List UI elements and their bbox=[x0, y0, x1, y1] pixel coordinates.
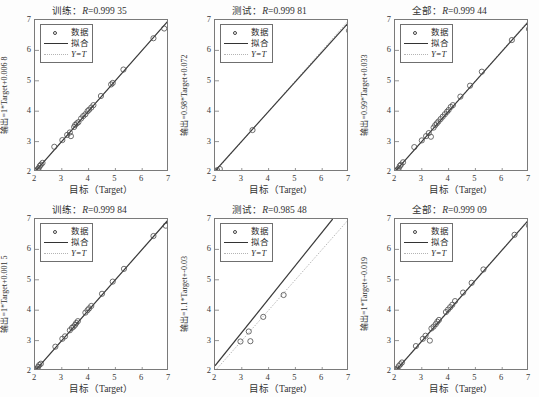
x-tick-label: 3 bbox=[234, 173, 248, 183]
x-axis-label: 目标（Target） bbox=[34, 182, 168, 196]
x-axis-label: 目标（Target） bbox=[214, 381, 348, 395]
legend-label: Y=T bbox=[249, 248, 266, 259]
x-tick-label: 6 bbox=[494, 372, 508, 382]
circle-marker-icon bbox=[43, 27, 69, 38]
y-tick-label: 6 bbox=[197, 243, 211, 253]
plot-area: 数据拟合Y=T bbox=[394, 19, 528, 171]
correlation-value: =0.999 44 bbox=[448, 6, 487, 16]
legend-item-fit[interactable]: 拟合 bbox=[403, 38, 449, 49]
x-tick-label: 7 bbox=[521, 173, 535, 183]
data-point bbox=[427, 338, 432, 343]
legend-item-identity[interactable]: Y=T bbox=[403, 248, 449, 259]
legend-item-identity[interactable]: Y=T bbox=[43, 248, 89, 259]
x-tick-label: 2 bbox=[27, 173, 41, 183]
legend-item-fit[interactable]: 拟合 bbox=[43, 38, 89, 49]
x-tick-label: 4 bbox=[261, 173, 275, 183]
data-point bbox=[163, 223, 168, 228]
legend-item-fit[interactable]: 拟合 bbox=[223, 38, 269, 49]
legend-label: Y=T bbox=[249, 49, 266, 60]
legend-item-data[interactable]: 数据 bbox=[403, 226, 449, 237]
solid-line-icon bbox=[43, 38, 69, 49]
y-tick-label: 6 bbox=[377, 243, 391, 253]
panel-title-prefix: 训练： bbox=[52, 205, 82, 215]
y-tick-label: 6 bbox=[17, 44, 31, 54]
x-tick-label: 4 bbox=[441, 173, 455, 183]
y-tick-label: 5 bbox=[17, 274, 31, 284]
correlation-value: =0.985 48 bbox=[268, 205, 307, 215]
legend-item-fit[interactable]: 拟合 bbox=[43, 237, 89, 248]
correlation-value: =0.999 81 bbox=[268, 6, 307, 16]
legend-item-identity[interactable]: Y=T bbox=[223, 49, 269, 60]
legend-label: 数据 bbox=[429, 27, 449, 38]
legend-item-data[interactable]: 数据 bbox=[403, 27, 449, 38]
regression-panel-6: 全部：R=0.999 09输出=1*Target+-0.019目标（Target… bbox=[360, 199, 539, 397]
legend-item-identity[interactable]: Y=T bbox=[403, 49, 449, 60]
panel-title-prefix: 训练： bbox=[52, 6, 82, 16]
y-tick-label: 4 bbox=[377, 304, 391, 314]
y-tick-label: 7 bbox=[17, 14, 31, 24]
legend-label: 数据 bbox=[69, 226, 89, 237]
x-tick-label: 6 bbox=[134, 173, 148, 183]
solid-line-glyph bbox=[224, 242, 248, 243]
plot-area: 数据拟合Y=T bbox=[34, 19, 168, 171]
circle-marker-glyph bbox=[53, 230, 57, 234]
y-tick-label: 3 bbox=[17, 136, 31, 146]
panel-title-prefix: 测试： bbox=[232, 205, 262, 215]
x-axis-label: 目标（Target） bbox=[34, 381, 168, 395]
dotted-line-glyph bbox=[44, 54, 68, 55]
y-tick-label: 4 bbox=[17, 304, 31, 314]
y-tick-label: 3 bbox=[197, 335, 211, 345]
dotted-line-icon bbox=[403, 49, 429, 60]
y-tick-label: 5 bbox=[377, 75, 391, 85]
legend-label: 拟合 bbox=[249, 38, 269, 49]
y-tick-label: 5 bbox=[377, 274, 391, 284]
legend-label: Y=T bbox=[69, 49, 86, 60]
x-tick-label: 4 bbox=[81, 173, 95, 183]
legend-label: 拟合 bbox=[429, 237, 449, 248]
regression-panel-2: 测试：R=0.999 81输出=0.98*Target+0.072目标（Targ… bbox=[180, 0, 359, 198]
legend-item-data[interactable]: 数据 bbox=[223, 27, 269, 38]
legend-item-data[interactable]: 数据 bbox=[43, 27, 89, 38]
legend: 数据拟合Y=T bbox=[40, 24, 93, 63]
legend-item-fit[interactable]: 拟合 bbox=[403, 237, 449, 248]
data-point bbox=[246, 329, 251, 334]
data-point bbox=[248, 339, 253, 344]
x-tick-label: 7 bbox=[161, 173, 175, 183]
solid-line-icon bbox=[43, 237, 69, 248]
solid-line-glyph bbox=[404, 43, 428, 44]
legend-item-identity[interactable]: Y=T bbox=[223, 248, 269, 259]
legend-item-data[interactable]: 数据 bbox=[43, 226, 89, 237]
y-axis-label: 输出=1.1*Target+-0.03 bbox=[177, 218, 193, 370]
x-tick-label: 7 bbox=[341, 173, 355, 183]
circle-marker-glyph bbox=[53, 31, 57, 35]
dotted-line-icon bbox=[43, 49, 69, 60]
legend-label: 拟合 bbox=[429, 38, 449, 49]
y-tick-label: 3 bbox=[17, 335, 31, 345]
legend: 数据拟合Y=T bbox=[220, 223, 273, 262]
circle-marker-icon bbox=[403, 226, 429, 237]
y-tick-label: 4 bbox=[17, 105, 31, 115]
y-axis-label: 输出=1*Target+0.001 5 bbox=[0, 218, 13, 370]
legend-item-identity[interactable]: Y=T bbox=[43, 49, 89, 60]
x-axis-label: 目标（Target） bbox=[214, 182, 348, 196]
data-point bbox=[526, 27, 528, 32]
y-tick-label: 7 bbox=[197, 14, 211, 24]
dotted-line-glyph bbox=[224, 54, 248, 55]
legend-item-fit[interactable]: 拟合 bbox=[223, 237, 269, 248]
x-axis-label: 目标（Target） bbox=[394, 182, 528, 196]
regression-panel-1: 训练：R=0.999 35输出=1*Target+0.006 8目标（Targe… bbox=[0, 0, 179, 198]
x-tick-label: 2 bbox=[207, 372, 221, 382]
panel-title-prefix: 全部： bbox=[412, 6, 442, 16]
panel-title-prefix: 测试： bbox=[232, 6, 262, 16]
x-tick-label: 2 bbox=[207, 173, 221, 183]
circle-marker-icon bbox=[223, 27, 249, 38]
legend-label: 数据 bbox=[69, 27, 89, 38]
legend-item-data[interactable]: 数据 bbox=[223, 226, 269, 237]
y-axis-label: 输出=1*Target+0.006 8 bbox=[0, 19, 13, 171]
regression-figure: 训练：R=0.999 35输出=1*Target+0.006 8目标（Targe… bbox=[0, 0, 539, 397]
y-tick-label: 7 bbox=[197, 213, 211, 223]
x-tick-label: 6 bbox=[314, 372, 328, 382]
circle-marker-glyph bbox=[233, 230, 237, 234]
circle-marker-icon bbox=[403, 27, 429, 38]
x-tick-label: 4 bbox=[81, 372, 95, 382]
